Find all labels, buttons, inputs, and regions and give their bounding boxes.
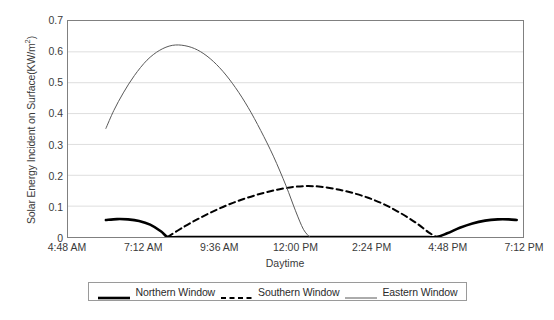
y-axis-tick-label: 0.3 — [19, 139, 63, 151]
legend-item[interactable]: Southern Window — [220, 286, 339, 298]
legend-label: Northern Window — [131, 286, 215, 298]
series-line — [106, 45, 310, 237]
y-axis-tick-label: 0.2 — [19, 170, 63, 182]
x-axis-title-text: Daytime — [250, 257, 305, 269]
plot-area — [67, 20, 524, 238]
x-axis-tick-label: 4:48 AM — [27, 241, 107, 253]
x-axis-tick-label: 9:36 AM — [179, 241, 259, 253]
series-line — [106, 219, 517, 237]
legend-label: Southern Window — [254, 286, 339, 298]
legend-item[interactable]: Northern Window — [97, 286, 215, 298]
x-axis-tick-labels: 4:48 AM7:12 AM9:36 AM12:00 PM2:24 PM4:48… — [0, 241, 554, 257]
series-line — [168, 186, 437, 237]
y-axis-tick-label: 0.5 — [19, 76, 63, 88]
y-axis-tick-label: 0.6 — [19, 45, 63, 57]
x-axis-tick-label: 4:48 PM — [408, 241, 488, 253]
legend-item[interactable]: Eastern Window — [344, 286, 457, 298]
x-axis-tick-label: 2:24 PM — [332, 241, 412, 253]
y-axis-tick-labels: 0.70.60.50.40.30.20.10 — [18, 0, 63, 320]
figure: Solar Energy Incident on Surface(KW/m2) … — [0, 0, 554, 320]
x-axis-tick-label: 7:12 AM — [103, 241, 183, 253]
legend-label: Eastern Window — [378, 286, 457, 298]
chart-legend: Northern WindowSouthern WindowEastern Wi… — [88, 282, 467, 301]
x-axis-tick-label: 12:00 PM — [256, 241, 336, 253]
legend-swatch-icon — [220, 288, 254, 296]
y-axis-tick-label: 0.7 — [19, 14, 63, 26]
y-axis-tick-label: 0.1 — [19, 201, 63, 213]
legend-swatch-icon — [97, 288, 131, 296]
figure-caption — [6, 308, 554, 320]
chart-canvas — [68, 21, 523, 237]
x-axis-tick-label: 7:12 PM — [484, 241, 554, 253]
legend-swatch-icon — [344, 288, 378, 296]
y-axis-tick-label: 0.4 — [19, 107, 63, 119]
x-axis-title: Daytime — [0, 257, 554, 269]
